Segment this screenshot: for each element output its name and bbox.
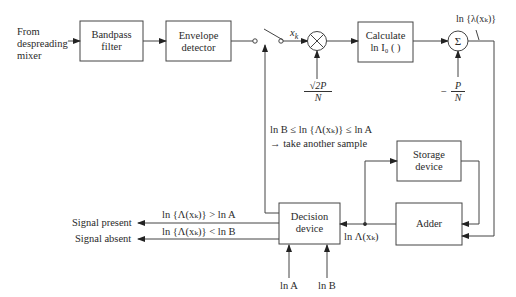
fraction-numerator: P — [451, 80, 465, 92]
bias-sign: − — [441, 86, 447, 98]
xk-label: xk — [290, 27, 298, 43]
block-label-line: filter — [80, 41, 143, 53]
bias-fraction: P N — [451, 80, 465, 103]
block-label-line: device — [397, 161, 461, 173]
take-another-sample-label: → take another sample — [270, 138, 367, 150]
adder-output-label: ln Λ(xₖ) — [344, 231, 378, 243]
multiplier-gain-fraction: √2P N — [304, 80, 332, 103]
present-condition-label: ln {Λ(xₖ)} > ln A — [162, 209, 236, 221]
lambda-output-label: ln {λ(xₖ)} — [456, 13, 496, 25]
threshold-a-label: ln A — [280, 280, 298, 292]
bandpass-filter-label: Bandpass filter — [80, 29, 143, 53]
fraction-numerator: √2P — [304, 80, 332, 92]
signal-present-output: Signal present — [72, 217, 132, 229]
absent-condition-label: ln {Λ(xₖ)} < ln B — [162, 226, 236, 238]
input-label-line: despreading — [17, 38, 68, 50]
block-label-line: Storage — [397, 149, 461, 161]
block-label-line: Calculate — [358, 30, 413, 42]
signal-absent-output: Signal absent — [75, 233, 131, 245]
block-label-line: detector — [166, 42, 231, 54]
decision-device-label: Decision device — [279, 211, 340, 235]
switch-blade — [264, 29, 283, 40]
input-label: From despreading mixer — [17, 26, 68, 62]
storage-device-label: Storage device — [397, 149, 461, 173]
block-label-line: Bandpass — [80, 29, 143, 41]
block-label-line: ln I₀ ( ) — [358, 42, 413, 54]
continue-condition-label: ln B ≤ ln {Λ(xₖ)} ≤ ln A — [270, 124, 372, 136]
sigma-icon: Σ — [451, 35, 465, 47]
fraction-denominator: N — [304, 92, 332, 103]
xk-subscript: k — [295, 32, 299, 41]
block-label-line: Envelope — [166, 30, 231, 42]
adder-label: Adder — [396, 218, 462, 230]
block-label-line: Decision — [279, 211, 340, 223]
switch-contact-left — [253, 39, 257, 43]
input-label-line: mixer — [17, 50, 68, 62]
input-label-line: From — [17, 26, 68, 38]
envelope-detector-label: Envelope detector — [166, 30, 231, 54]
block-label-line: device — [279, 223, 340, 235]
threshold-b-label: ln B — [318, 280, 336, 292]
calculate-label: Calculate ln I₀ ( ) — [358, 30, 413, 54]
fraction-denominator: N — [451, 92, 465, 103]
